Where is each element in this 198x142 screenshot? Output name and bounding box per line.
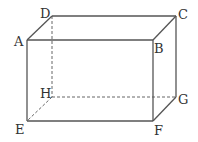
visible-edges <box>27 16 176 121</box>
vertex-label-F: F <box>154 123 163 138</box>
vertex-label-C: C <box>178 7 188 22</box>
vertex-label-G: G <box>178 92 188 107</box>
vertex-label-E: E <box>15 122 25 137</box>
vertex-label-B: B <box>154 41 164 56</box>
vertex-label-A: A <box>13 34 24 49</box>
vertex-label-D: D <box>40 6 50 21</box>
edge-BC <box>153 16 176 40</box>
edge-FG <box>153 97 176 121</box>
vertex-label-H: H <box>40 86 51 101</box>
prism-diagram: ABCDEFGH <box>0 0 198 142</box>
prism-figure: ABCDEFGH <box>0 0 198 142</box>
vertex-labels: ABCDEFGH <box>13 6 188 138</box>
